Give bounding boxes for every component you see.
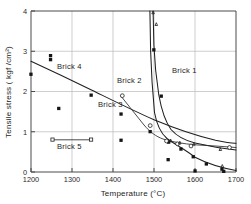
y-tick-label-3: 3 <box>23 47 27 56</box>
chart-canvas: 0 1 2 3 4 1200 1300 1400 1500 1600 1700 … <box>0 0 251 204</box>
series-label-brick-5: Brick 5 <box>57 142 82 151</box>
marker-brick-5-right <box>90 138 93 141</box>
x-tick-label-1400: 1400 <box>105 175 121 184</box>
marker-brick-5-left <box>51 138 54 141</box>
x-tick-label-1700: 1700 <box>228 175 244 184</box>
series-label-brick-3: Brick 3 <box>98 100 123 109</box>
series-label-brick-2: Brick 2 <box>117 76 142 85</box>
x-tick-label-1300: 1300 <box>64 175 80 184</box>
y-tick-label-4: 4 <box>23 7 27 16</box>
x-tick-label-1500: 1500 <box>146 175 162 184</box>
series-label-brick-1: Brick 1 <box>172 66 197 75</box>
x-tick-label-1200: 1200 <box>23 175 39 184</box>
y-tick-label-2: 2 <box>23 87 27 96</box>
x-axis-title: Temperature (°C) <box>101 189 166 198</box>
y-tick-label-1: 1 <box>23 128 27 137</box>
y-axis-title: Tensile stress ( kgf /cm²) <box>4 46 13 138</box>
series-label-brick-4: Brick 4 <box>57 62 82 71</box>
x-tick-label-1600: 1600 <box>187 175 203 184</box>
chart-figure: 0 1 2 3 4 1200 1300 1400 1500 1600 1700 … <box>0 0 251 204</box>
